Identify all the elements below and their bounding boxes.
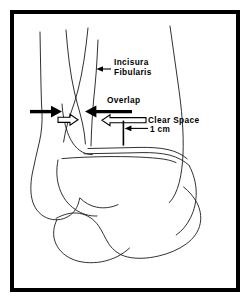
ankle-mortise-figure: Incisura Fibularis Overlap Clear Space [0,0,250,302]
incisura-label: Incisura [114,57,149,67]
fibularis-label: Fibularis [114,67,152,77]
ankle-diagram-svg: Incisura Fibularis Overlap Clear Space [0,0,250,302]
overlap-label: Overlap [107,95,140,105]
one-cm-label: 1 cm [150,124,170,134]
